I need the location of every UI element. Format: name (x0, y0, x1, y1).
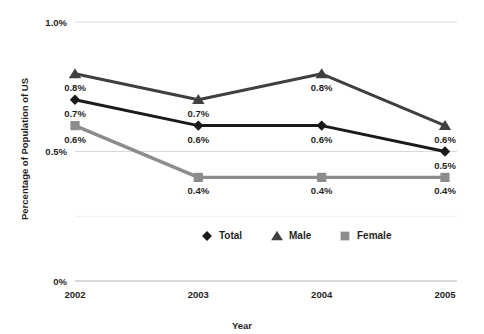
data-label-total-2003: 0.6% (188, 134, 210, 145)
x-axis-title: Year (232, 320, 252, 331)
data-label-female-2005: 0.4% (434, 185, 456, 196)
data-label-female-2002: 0.6% (64, 134, 86, 145)
data-label-total-2002: 0.7% (64, 108, 86, 119)
y-axis-title: Percentage of Population of US (19, 78, 30, 220)
line-chart: 1.0%0.5%0% 2002200320042005 0.7%0.6%0.6%… (0, 0, 484, 334)
data-point-female-2004 (317, 173, 326, 182)
legend-label-male: Male (289, 230, 312, 241)
x-tick-label: 2002 (64, 289, 85, 300)
data-label-female-2003: 0.4% (188, 185, 210, 196)
x-tick-label: 2003 (188, 289, 209, 300)
y-tick-label: 1.0% (45, 17, 67, 28)
data-label-male-2005: 0.6% (434, 134, 456, 145)
legend-label-female: Female (357, 230, 392, 241)
y-tick-label: 0% (53, 276, 67, 287)
chart-legend: TotalMaleFemale (202, 230, 392, 241)
data-label-male-2004: 0.8% (311, 82, 333, 93)
data-point-female-2003 (194, 173, 203, 182)
data-label-total-2005: 0.5% (434, 160, 456, 171)
chart-background (0, 0, 484, 334)
data-point-female-2002 (70, 121, 79, 130)
data-point-female-2005 (440, 173, 449, 182)
data-label-female-2004: 0.4% (311, 185, 333, 196)
legend-label-total: Total (219, 230, 242, 241)
data-label-male-2003: 0.7% (188, 108, 210, 119)
legend-marker-female (341, 232, 350, 241)
data-label-male-2002: 0.8% (64, 82, 86, 93)
chart-canvas: 1.0%0.5%0% 2002200320042005 0.7%0.6%0.6%… (0, 0, 484, 334)
data-label-total-2004: 0.6% (311, 134, 333, 145)
x-tick-label: 2004 (311, 289, 333, 300)
x-tick-label: 2005 (434, 289, 456, 300)
y-tick-label: 0.5% (45, 146, 67, 157)
